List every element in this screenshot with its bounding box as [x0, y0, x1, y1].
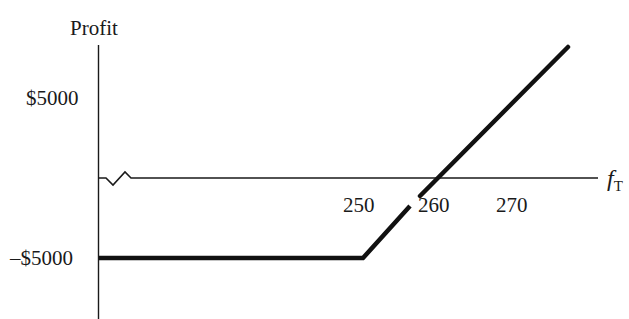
chart-canvas: [0, 0, 629, 319]
x-tick-label-250: 250: [343, 195, 375, 216]
y-tick-label-minus-5000: –$5000: [10, 248, 73, 269]
x-axis-label-subscript: T: [614, 178, 623, 194]
profit-diagram: Profit $5000 –$5000 250 260 270 fT: [0, 0, 629, 319]
payoff-line-rising: [420, 47, 568, 196]
x-axis-label-main: f: [607, 165, 614, 191]
y-axis-label: Profit: [70, 18, 118, 39]
x-axis-label: fT: [607, 166, 623, 190]
y-tick-label-5000: $5000: [26, 88, 79, 109]
x-axis: [99, 172, 599, 185]
x-tick-label-270: 270: [496, 195, 528, 216]
x-tick-label-260: 260: [418, 195, 450, 216]
